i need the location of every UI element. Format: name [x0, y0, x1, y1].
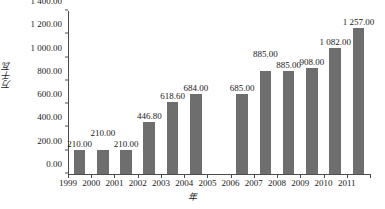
- bar[interactable]: [306, 68, 318, 174]
- bar-chart: 万千瓦 0.00200.00400.00600.00800.001 000.00…: [0, 0, 385, 209]
- x-tick-label: 2010: [315, 178, 333, 188]
- x-tick-label: 2005: [198, 178, 216, 188]
- bar-value-label: 885.00: [276, 60, 301, 70]
- y-tick-label: 1 400.00: [31, 0, 69, 6]
- bar-slot: 908.00: [300, 11, 323, 174]
- x-tick-mark: [347, 174, 348, 178]
- bar[interactable]: [329, 48, 341, 174]
- x-tick-mark: [161, 174, 162, 178]
- bar-slot: 1 082.00: [324, 11, 347, 174]
- bar[interactable]: [97, 150, 109, 174]
- bar-slot: 685.00: [231, 11, 254, 174]
- bar-slot: [207, 11, 230, 174]
- bar-slot: 210.00: [68, 11, 91, 174]
- bar-slot: 1 257.00: [347, 11, 370, 174]
- x-tick-mark: [138, 174, 139, 178]
- bar[interactable]: [353, 28, 365, 174]
- x-tick-mark: [184, 174, 185, 178]
- bar-slot: 885.00: [277, 11, 300, 174]
- bar-slot: 210.00: [114, 11, 137, 174]
- x-tick-label: 2008: [268, 178, 286, 188]
- x-tick-mark: [370, 174, 371, 178]
- x-tick-label: 2002: [129, 178, 147, 188]
- y-tick-label: 1 000.00: [31, 43, 69, 53]
- bar-value-label: 685.00: [230, 83, 255, 93]
- bar-value-label: 908.00: [300, 57, 325, 67]
- plot-area: 0.00200.00400.00600.00800.001 000.001 20…: [68, 11, 370, 174]
- y-axis-title: 万千瓦: [1, 62, 15, 89]
- bar-slot: 210.00: [91, 11, 114, 174]
- bar-slot: 684.00: [184, 11, 207, 174]
- bar[interactable]: [120, 150, 132, 174]
- bar-value-label: 885.00: [253, 49, 278, 59]
- x-tick-label: 2001: [105, 178, 123, 188]
- bar-slot: 446.80: [138, 11, 161, 174]
- x-tick-mark: [114, 174, 115, 178]
- bar-series: 210.00210.00210.00446.80618.60684.00685.…: [68, 11, 370, 174]
- y-tick-label: 800.00: [37, 66, 68, 76]
- x-tick-label: 2009: [291, 178, 309, 188]
- bar-value-label: 210.00: [67, 139, 92, 149]
- x-tick-label: 2011: [338, 178, 356, 188]
- bar[interactable]: [283, 71, 295, 174]
- bar-slot: 885.00: [254, 11, 277, 174]
- bar[interactable]: [236, 94, 248, 174]
- x-tick-label: 2004: [175, 178, 193, 188]
- x-tick-label: 2000: [82, 178, 100, 188]
- x-tick-mark: [254, 174, 255, 178]
- x-tick-mark: [300, 174, 301, 178]
- bar[interactable]: [74, 150, 86, 174]
- bar-value-label: 210.00: [114, 139, 139, 149]
- x-tick-label: 1999: [59, 178, 77, 188]
- y-tick-label: 600.00: [37, 89, 68, 99]
- bar[interactable]: [190, 94, 202, 174]
- x-tick-label: 2006: [222, 178, 240, 188]
- x-axis-title: 年: [0, 190, 385, 203]
- y-tick-label: 0.00: [46, 159, 68, 169]
- bar-value-label: 618.60: [160, 91, 185, 101]
- bar[interactable]: [143, 122, 155, 174]
- bar-slot: 618.60: [161, 11, 184, 174]
- x-tick-label: 2003: [152, 178, 170, 188]
- x-tick-mark: [324, 174, 325, 178]
- y-tick-label: 400.00: [37, 112, 68, 122]
- x-tick-mark: [231, 174, 232, 178]
- bar[interactable]: [167, 102, 179, 174]
- y-tick-label: 1 200.00: [31, 19, 69, 29]
- x-tick-label: 2007: [245, 178, 263, 188]
- bar-value-label: 684.00: [183, 83, 208, 93]
- y-tick-label: 200.00: [37, 136, 68, 146]
- bar-value-label: 210.00: [90, 128, 115, 138]
- x-axis-line: [68, 174, 371, 175]
- x-tick-mark: [91, 174, 92, 178]
- bar[interactable]: [260, 71, 272, 174]
- bar-value-label: 446.80: [137, 111, 162, 121]
- x-tick-mark: [68, 174, 69, 178]
- x-tick-mark: [207, 174, 208, 178]
- bar-value-label: 1 257.00: [343, 17, 375, 27]
- x-tick-mark: [277, 174, 278, 178]
